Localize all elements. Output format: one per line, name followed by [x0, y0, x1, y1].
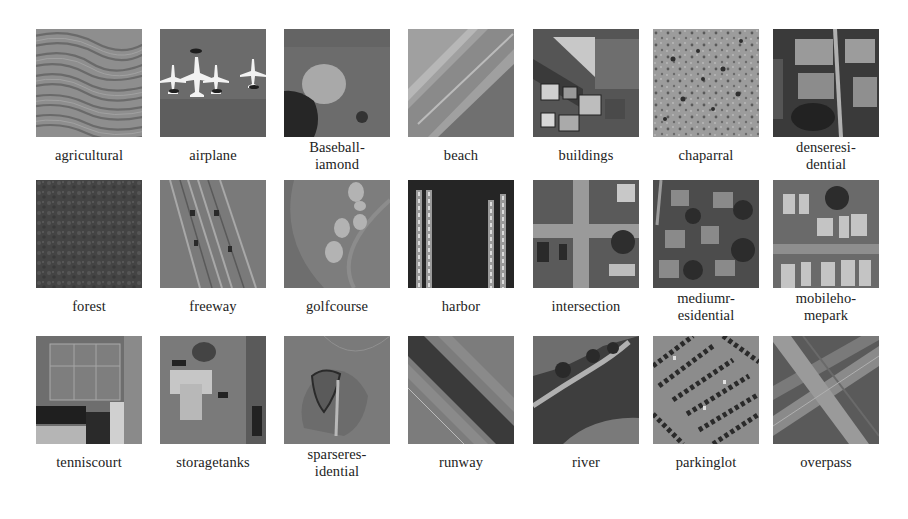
class-label-line-2: idential: [315, 463, 359, 479]
class-label: mobileho- mepark: [763, 290, 889, 324]
class-label: overpass: [763, 454, 889, 471]
class-label: beach: [398, 147, 524, 164]
parkinglot-image: [653, 336, 759, 444]
dense-residential-image: [773, 29, 879, 137]
class-label-line-1: mediumr-: [677, 290, 735, 306]
class-label: mediumr- esidential: [643, 290, 769, 324]
class-label: chaparral: [643, 147, 769, 164]
class-label: agricultural: [26, 147, 152, 164]
class-label-line-2: iamond: [315, 156, 359, 172]
mobile-home-park-image: [773, 180, 879, 288]
class-label: golfcourse: [274, 298, 400, 315]
class-label: river: [523, 454, 649, 471]
intersection-image: [533, 180, 639, 288]
class-label: airplane: [150, 147, 276, 164]
class-label: buildings: [523, 147, 649, 164]
forest-image: [36, 180, 142, 288]
harbor-image: [408, 180, 514, 288]
freeway-image: [160, 180, 266, 288]
storagetanks-image: [160, 336, 266, 444]
class-label: intersection: [523, 298, 649, 315]
class-label-line-1: mobileho-: [796, 290, 857, 306]
buildings-image: [533, 29, 639, 137]
class-label: storagetanks: [150, 454, 276, 471]
class-label: sparseres- idential: [274, 446, 400, 480]
class-label: denseresi- dential: [763, 139, 889, 173]
sparse-residential-image: [284, 336, 390, 444]
class-label: freeway: [150, 298, 276, 315]
tenniscourt-image: [36, 336, 142, 444]
class-label-line-2: mepark: [804, 307, 848, 323]
land-use-class-grid: agricultural airplane: [0, 0, 908, 519]
medium-residential-image: [653, 180, 759, 288]
class-label: tenniscourt: [26, 454, 152, 471]
class-label-line-1: Baseball-: [309, 139, 365, 155]
baseball-diamond-image: [284, 29, 390, 137]
class-label: forest: [26, 298, 152, 315]
class-label: harbor: [398, 298, 524, 315]
class-label: parkinglot: [643, 454, 769, 471]
class-label-line-1: denseresi-: [796, 139, 856, 155]
class-label-line-2: esidential: [678, 307, 735, 323]
chaparral-image: [653, 29, 759, 137]
class-label: runway: [398, 454, 524, 471]
overpass-image: [773, 336, 879, 444]
golfcourse-image: [284, 180, 390, 288]
river-image: [533, 336, 639, 444]
class-label: Baseball- iamond: [274, 139, 400, 173]
class-label-line-1: sparseres-: [308, 446, 367, 462]
class-label-line-2: dential: [806, 156, 846, 172]
agricultural-image: [36, 29, 142, 137]
beach-image: [408, 29, 514, 137]
airplane-image: [160, 29, 266, 137]
runway-image: [408, 336, 514, 444]
